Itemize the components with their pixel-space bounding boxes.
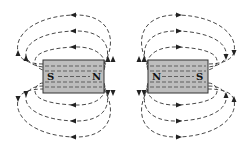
- right-magnet-s-pole: S: [196, 71, 203, 82]
- right-magnet-n-pole: N: [152, 71, 161, 82]
- left-magnet-n-pole: N: [92, 71, 101, 82]
- left-magnet-s-pole: S: [47, 71, 54, 82]
- left-magnet: S N: [43, 60, 104, 93]
- magnetic-field-diagram: S N N S: [0, 0, 246, 152]
- right-magnet: N S: [148, 60, 208, 93]
